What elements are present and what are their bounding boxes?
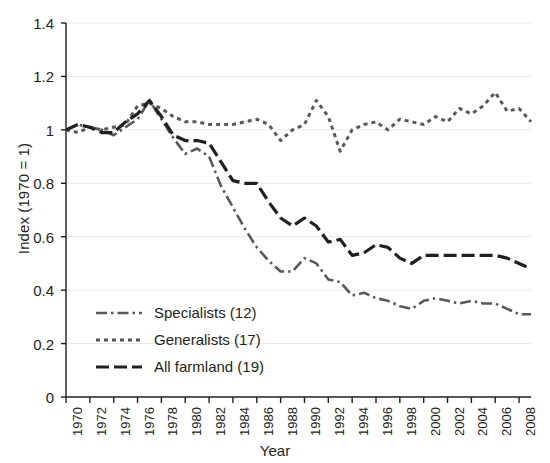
x-tick-label: 2006	[500, 407, 513, 436]
x-tick-label: 1982	[214, 407, 227, 436]
x-tick-label: 1994	[357, 407, 370, 436]
y-tick-label: 1.4	[14, 16, 54, 31]
legend-item-specialists: Specialists (12)	[96, 299, 264, 326]
x-tick-label: 1976	[143, 407, 156, 436]
legend-swatch-generalists	[96, 334, 142, 346]
y-tick-label: 0	[14, 390, 54, 405]
x-tick-label: 1988	[286, 407, 299, 436]
x-tick-label: 1992	[333, 407, 346, 436]
y-tick-label: 0.2	[14, 337, 54, 352]
x-tick-label: 2002	[453, 407, 466, 436]
chart-figure: Index (1970 = 1) Year 00.20.40.60.811.21…	[0, 0, 550, 463]
x-tick-label: 1984	[238, 407, 251, 436]
gridlines	[66, 23, 531, 344]
x-tick-label: 1980	[190, 407, 203, 436]
x-tick-label: 1990	[309, 407, 322, 436]
legend-swatch-specialists	[96, 307, 142, 319]
legend-item-generalists: Generalists (17)	[96, 326, 264, 353]
x-tick-label: 1978	[166, 407, 179, 436]
x-tick-label: 1998	[405, 407, 418, 436]
x-axis-title: Year	[0, 442, 550, 459]
x-tick-label: 1970	[71, 407, 84, 436]
y-tick-label: 0.6	[14, 230, 54, 245]
legend-label-all-farmland: All farmland (19)	[154, 359, 264, 374]
legend-item-all-farmland: All farmland (19)	[96, 353, 264, 380]
y-tick-label: 1.2	[14, 69, 54, 84]
legend-swatch-all-farmland	[96, 361, 142, 373]
chart-legend: Specialists (12) Generalists (17) All fa…	[96, 299, 264, 380]
x-tick-label: 2004	[476, 407, 489, 436]
x-tick-label: 1972	[95, 407, 108, 436]
x-tick-label: 1986	[262, 407, 275, 436]
y-tick-label: 0.4	[14, 283, 54, 298]
x-tick-label: 2008	[524, 407, 537, 436]
legend-label-specialists: Specialists (12)	[154, 305, 257, 320]
x-tick-label: 2000	[429, 407, 442, 436]
series-lines	[66, 92, 531, 314]
line-chart-plot	[0, 0, 550, 463]
y-tick-label: 1	[14, 123, 54, 138]
y-tick-label: 0.8	[14, 176, 54, 191]
x-tick-label: 1974	[119, 407, 132, 436]
legend-label-generalists: Generalists (17)	[154, 332, 261, 347]
x-tick-label: 1996	[381, 407, 394, 436]
